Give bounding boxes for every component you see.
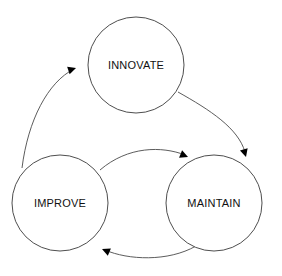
node-maintain[interactable]: MAINTAIN [166, 155, 262, 251]
node-innovate[interactable]: INNOVATE [88, 17, 184, 113]
cycle-diagram-canvas: INNOVATE IMPROVE MAINTAIN [0, 0, 282, 276]
link-improve-to-innovate [22, 69, 74, 168]
arrowhead-innovate-to-maintain-group [240, 148, 250, 158]
arrowhead-improve-to-maintain-group [179, 150, 189, 160]
arrowhead-improve-to-innovate [67, 64, 77, 74]
link-innovate-to-maintain [178, 92, 245, 152]
node-innovate-label: INNOVATE [108, 59, 164, 71]
link-maintain-to-improve [105, 246, 196, 258]
arrowhead-maintain-to-improve [100, 245, 110, 255]
arrowhead-improve-to-innovate-group [67, 64, 77, 74]
arrowhead-improve-to-maintain [179, 150, 189, 160]
link-improve-to-maintain [100, 149, 185, 170]
cycle-diagram-svg: INNOVATE IMPROVE MAINTAIN [0, 0, 282, 276]
node-maintain-label: MAINTAIN [187, 197, 240, 209]
node-improve[interactable]: IMPROVE [12, 155, 108, 251]
arrowhead-innovate-to-maintain [240, 148, 250, 158]
arrowhead-maintain-to-improve-group [100, 245, 110, 255]
node-improve-label: IMPROVE [34, 197, 86, 209]
